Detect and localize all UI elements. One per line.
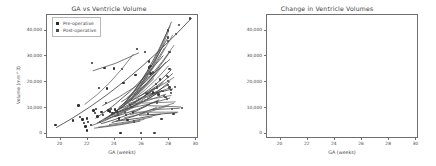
- panel-change-in-ventricle-volumes: Change in Ventricle Volumes Volume (mm^3…: [218, 0, 436, 166]
- x-tick-label: 20: [51, 141, 69, 146]
- y-tick-mark: [44, 55, 46, 56]
- x-tick-mark: [168, 138, 169, 140]
- legend-label-pre-operative: Pre-operative: [63, 21, 94, 26]
- two-panel-figure: GA vs Ventricle Volume Volume (mm^3) GA …: [0, 0, 436, 166]
- right-trajectory-lines: [218, 0, 436, 166]
- y-tick-mark: [44, 30, 46, 31]
- x-tick-label: 22: [78, 141, 96, 146]
- y-tick-label: 10,000: [12, 105, 42, 110]
- left-chart-title: GA vs Ventricle Volume: [0, 5, 218, 12]
- x-tick-mark: [195, 138, 196, 140]
- x-tick-label: 26: [132, 141, 150, 146]
- scatter-point: [84, 125, 86, 127]
- x-tick-mark: [60, 138, 61, 140]
- y-tick-label: 20,000: [12, 79, 42, 84]
- scatter-point: [86, 117, 88, 119]
- y-tick-label: 40,000: [12, 27, 42, 32]
- scatter-point: [160, 118, 162, 120]
- scatter-point: [168, 68, 170, 70]
- legend-item-post-operative: Post-operative: [56, 27, 96, 34]
- y-tick-label: 30,000: [12, 53, 42, 58]
- y-tick-mark: [44, 81, 46, 82]
- y-tick-label: 0: [12, 130, 42, 135]
- scatter-point: [153, 132, 155, 134]
- left-x-axis-label: GA (weeks): [46, 150, 198, 155]
- scatter-point: [54, 124, 56, 126]
- legend-label-post-operative: Post-operative: [63, 28, 96, 33]
- x-tick-mark: [87, 138, 88, 140]
- scatter-point: [113, 67, 115, 69]
- legend-swatch-post-operative: [56, 29, 59, 32]
- x-tick-label: 28: [159, 141, 177, 146]
- scatter-point: [119, 132, 121, 134]
- y-tick-mark: [44, 107, 46, 108]
- left-y-axis-label: Volume (mm^3): [16, 66, 21, 104]
- scatter-point: [86, 129, 88, 131]
- y-tick-mark: [44, 133, 46, 134]
- x-tick-mark: [141, 138, 142, 140]
- legend-item-pre-operative: Pre-operative: [56, 20, 96, 27]
- x-tick-mark: [114, 138, 115, 140]
- legend-swatch-pre-operative: [56, 22, 59, 25]
- scatter-point: [77, 104, 79, 106]
- scatter-point: [81, 118, 83, 120]
- left-legend: Pre-operative Post-operative: [52, 17, 101, 37]
- x-tick-label: 30: [186, 141, 204, 146]
- x-tick-label: 24: [105, 141, 123, 146]
- scatter-point: [157, 93, 159, 95]
